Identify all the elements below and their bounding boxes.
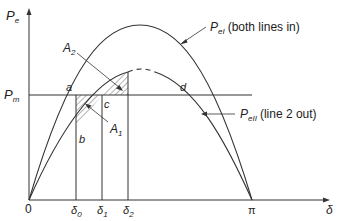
- pe-ii-leader: [201, 112, 235, 117]
- origin-label: 0: [25, 202, 32, 216]
- power-angle-diagram: Pe Pm a b c d A2 A1 PeI(both lines in) P…: [0, 0, 339, 221]
- pe-i-leader: [180, 27, 206, 45]
- delta1-label: δ1: [97, 204, 108, 219]
- x-axis-label: δ: [326, 203, 333, 217]
- pm-label: Pm: [4, 87, 20, 104]
- x-axis: [29, 198, 330, 203]
- point-b-label: b: [79, 133, 85, 145]
- y-axis: [27, 8, 32, 200]
- curve-pe-i-label: PeI(both lines in): [210, 20, 300, 36]
- curve-pe-ii-label: PeII(line 2 out): [240, 107, 317, 123]
- y-axis-label: Pe: [6, 8, 20, 25]
- area-a1-label: A1: [109, 122, 122, 138]
- arrow-right-icon: [323, 198, 330, 203]
- point-d-label: d: [180, 81, 187, 93]
- area-a1: [76, 95, 102, 128]
- point-c-label: c: [104, 98, 110, 110]
- area-a2-label: A2: [62, 41, 76, 57]
- curve-pe-ii-fall: [155, 72, 252, 200]
- delta2-label: δ2: [123, 204, 134, 219]
- curve-pe-ii-dashed: [128, 69, 155, 72]
- arrow-up-icon: [27, 8, 32, 15]
- delta0-label: δ0: [71, 204, 82, 219]
- pi-label: π: [248, 204, 256, 216]
- a2-leader: [77, 53, 123, 91]
- point-a-label: a: [66, 81, 72, 93]
